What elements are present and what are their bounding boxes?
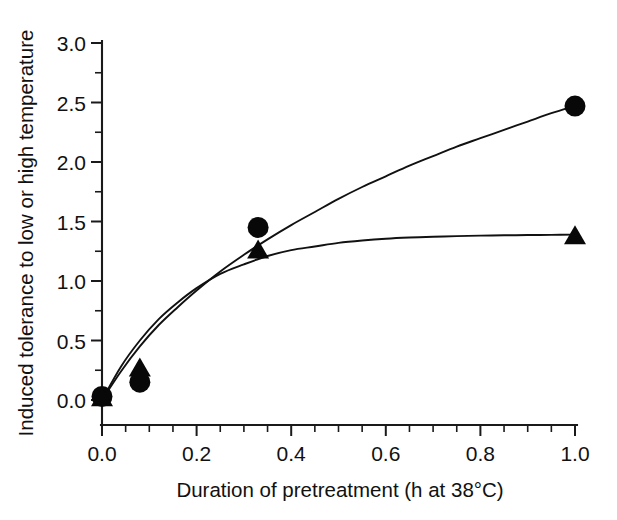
x-tick-label: 0.4 [277, 442, 307, 465]
x-tick-label: 0.2 [182, 442, 211, 465]
data-point-circle [248, 217, 269, 238]
y-tick-label: 1.5 [57, 211, 86, 234]
y-axis-title: Induced tolerance to low or high tempera… [14, 30, 37, 437]
x-tick-label: 0.6 [371, 442, 400, 465]
x-axis-title: Duration of pretreatment (h at 38°C) [176, 478, 503, 501]
y-tick-label: 0.0 [57, 389, 86, 412]
data-point-triangle [129, 357, 151, 376]
fit-curve-circles [102, 106, 575, 400]
scatter-plot: 0.00.20.40.60.81.0 0.00.51.01.52.02.53.0… [0, 0, 617, 520]
y-tick-label: 2.5 [57, 92, 86, 115]
y-tick-label: 3.0 [57, 32, 86, 55]
y-tick-label: 2.0 [57, 151, 86, 174]
fit-curve-triangles [102, 235, 575, 400]
x-tick-label: 0.0 [87, 442, 116, 465]
figure-container: 0.00.20.40.60.81.0 0.00.51.01.52.02.53.0… [0, 0, 617, 520]
y-axis-major-ticks [91, 43, 102, 400]
y-tick-label: 1.0 [57, 270, 86, 293]
fit-curves [102, 106, 575, 400]
data-markers [91, 96, 586, 407]
data-point-circle [565, 96, 586, 117]
data-point-triangle [247, 240, 269, 259]
x-tick-label: 1.0 [560, 442, 589, 465]
y-tick-labels: 0.00.51.01.52.02.53.0 [57, 32, 86, 412]
x-tick-labels: 0.00.20.40.60.81.0 [87, 442, 589, 465]
y-tick-label: 0.5 [57, 330, 86, 353]
x-tick-label: 0.8 [466, 442, 495, 465]
